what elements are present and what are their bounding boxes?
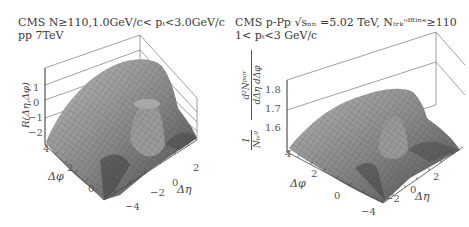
- left-panel: CMS N≥110,1.0GeV/c< pₜ<3.0GeV/c pp 7TeV: [0, 0, 234, 227]
- right-panel: CMS p-Pp √sₙₙ =5.02 TeV, Nₜᵣₖᵒᶠᶠˡⁱⁿᵉ≥110…: [235, 0, 469, 227]
- left-z-tick: 0: [33, 97, 39, 108]
- right-phi-tick: 0: [334, 190, 340, 201]
- right-phi-axis-label: Δφ: [290, 177, 306, 190]
- left-z-tick: 1: [33, 82, 39, 93]
- left-z-tick: −1: [28, 112, 43, 123]
- right-phi-tick: 4: [285, 148, 291, 159]
- right-z-axis-label: d²Nᵖᵃⁱʳ dΔη dΔφ: [241, 50, 262, 120]
- right-z-tick: 1.8: [265, 84, 281, 95]
- left-phi-axis-label: Δφ: [48, 170, 64, 183]
- left-eta-tick: −4: [125, 201, 140, 212]
- right-z-axis-prefix: 1 Nₜᵣᵍ: [241, 130, 262, 150]
- left-eta-tick: 2: [193, 162, 199, 173]
- left-phi-tick: 2: [67, 162, 73, 173]
- left-phi-tick: 4: [43, 143, 49, 154]
- left-eta-axis-label: Δη: [177, 183, 192, 196]
- right-z-tick: 1.7: [265, 103, 281, 114]
- left-z-tick: −2: [28, 127, 43, 138]
- right-eta-tick: −4: [361, 206, 376, 217]
- left-eta-tick: −2: [150, 187, 165, 198]
- right-eta-tick: 2: [433, 171, 439, 182]
- right-z-tick: 1.6: [265, 122, 281, 133]
- right-eta-axis-label: Δη: [415, 190, 430, 203]
- left-phi-tick: 0: [88, 183, 94, 194]
- right-eta-tick: −2: [385, 193, 400, 204]
- right-phi-tick: 2: [311, 168, 317, 179]
